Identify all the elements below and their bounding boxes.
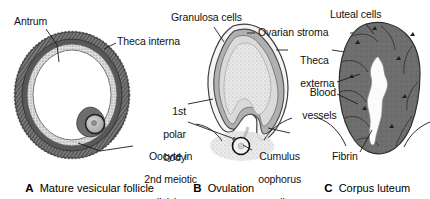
label-luteal-cells: Luteal cells — [330, 9, 381, 21]
label-blood-line-2: vessels — [302, 109, 336, 121]
label-ovarian-stroma: Ovarian stroma — [258, 27, 328, 39]
label-theca-interna: Theca interna — [117, 36, 180, 48]
caption-text-b: Ovulation — [208, 182, 254, 194]
label-blood-vessels: Blood vessels — [291, 75, 336, 133]
label-antrum: Antrum — [14, 16, 47, 28]
caption-text-c: Corpus luteum — [339, 182, 411, 194]
first-polar-body-b — [232, 137, 236, 141]
leader-granulosa — [214, 27, 224, 42]
leader-polar-body — [188, 99, 213, 104]
label-cumulus-line-1: Cumulus — [259, 150, 300, 162]
ovarian-cycle-figure: Antrum Theca interna Oocyte in 2nd meiot… — [0, 0, 430, 199]
caption-text-a: Mature vesicular follicle — [40, 182, 154, 194]
caption-letter-c: C — [324, 182, 332, 194]
label-cumulus-oophorus-cells: Cumulus oophorus cells — [246, 139, 302, 199]
label-granulosa-cells: Granulosa cells — [171, 12, 242, 24]
label-blood-line-1: Blood — [310, 86, 336, 98]
caption-letter-a: A — [25, 182, 33, 194]
label-polar-line-1: 1st — [172, 105, 186, 117]
clipped-text-row — [0, 194, 430, 199]
label-theca-externa-line-1: Theca — [300, 54, 329, 66]
oocyte-nucleus-a — [91, 120, 96, 125]
label-fibrin: Fibrin — [332, 151, 358, 163]
caption-letter-b: B — [193, 182, 201, 194]
label-cumulus-line-2: oophorus — [258, 173, 301, 185]
label-polar-line-3: body — [164, 151, 186, 163]
label-polar-line-2: polar — [163, 128, 186, 140]
label-first-polar-body: 1st polar body — [145, 94, 186, 175]
panel-a-artwork — [15, 29, 134, 159]
oocyte-nucleus-b — [238, 143, 244, 149]
